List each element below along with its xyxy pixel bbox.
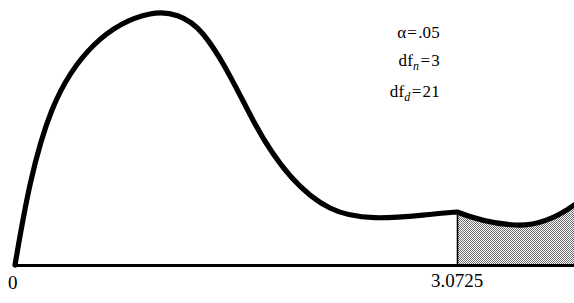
rejection-region-shading (457, 200, 574, 265)
axis-label-critical-value: 3.0725 (431, 270, 483, 292)
alpha-symbol: α (397, 23, 406, 42)
df-numerator-annotation: dfn=3 (330, 52, 440, 72)
df-numerator-symbol: df (398, 51, 413, 70)
f-distribution-figure: α=.05 dfn=3 dfd=21 0 3.0725 (0, 0, 574, 303)
df-denominator-value: 21 (423, 82, 440, 101)
df-numerator-subscript: n (413, 59, 420, 73)
df-denominator-subscript: d (404, 90, 411, 104)
alpha-value: .05 (418, 23, 440, 42)
alpha-annotation: α=.05 (330, 24, 440, 41)
distribution-plot (0, 0, 574, 303)
df-numerator-value: 3 (431, 51, 440, 70)
alpha-equals: = (406, 23, 418, 42)
axis-label-origin: 0 (8, 272, 18, 294)
df-numerator-equals: = (420, 51, 432, 70)
df-denominator-equals: = (411, 82, 423, 101)
df-denominator-symbol: df (390, 82, 405, 101)
df-denominator-annotation: dfd=21 (330, 83, 440, 103)
parameter-annotations: α=.05 dfn=3 dfd=21 (330, 24, 440, 114)
